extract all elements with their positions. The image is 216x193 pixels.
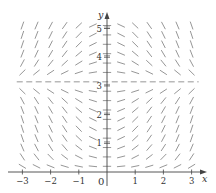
x-tick-label: 1 <box>132 176 137 186</box>
slope-segment <box>47 89 53 93</box>
slope-segment <box>132 51 138 56</box>
slope-segment <box>76 108 82 113</box>
slope-segment <box>190 31 192 38</box>
slope-segment <box>160 70 166 74</box>
x-tick-label: 3 <box>189 176 194 186</box>
slope-segment <box>75 166 82 167</box>
slope-segment <box>147 32 151 38</box>
slope-segment <box>161 144 165 150</box>
x-tick-label: −2 <box>44 176 57 186</box>
slope-segment <box>118 43 125 46</box>
slope-segment <box>133 42 138 47</box>
slope-segment <box>147 126 151 132</box>
slope-segments <box>17 22 199 168</box>
slope-segment <box>63 135 67 141</box>
slope-segment <box>89 146 96 149</box>
slope-segment <box>132 166 139 167</box>
slope-segment <box>62 155 68 160</box>
slope-segment <box>61 165 68 167</box>
slope-segment <box>62 61 67 66</box>
slope-segment <box>21 22 24 29</box>
slope-segment <box>34 60 38 66</box>
slope-segment <box>162 135 166 142</box>
slope-segment <box>118 24 125 27</box>
slope-segment <box>162 41 165 48</box>
slope-segment <box>76 145 82 150</box>
slope-segment <box>90 43 97 46</box>
slope-segment <box>20 89 25 94</box>
slope-segment <box>89 166 96 167</box>
slope-segment <box>162 22 166 29</box>
slope-segment <box>34 154 39 160</box>
slope-segment <box>118 52 125 55</box>
slope-segment <box>176 50 179 57</box>
y-tick-label: 5 <box>97 24 102 34</box>
slope-segment <box>49 125 52 132</box>
slope-segment <box>21 107 24 114</box>
slope-segment <box>132 23 137 28</box>
slope-segment <box>49 32 52 39</box>
slope-segment <box>49 144 53 150</box>
slope-segment <box>62 145 67 151</box>
slope-segment <box>147 107 152 113</box>
y-axis-label: y <box>97 9 104 20</box>
slope-segment <box>176 125 179 132</box>
slope-segment <box>147 22 151 28</box>
slope-segment <box>118 127 125 130</box>
slope-segment <box>118 62 125 64</box>
slope-segment <box>162 32 165 39</box>
slope-segment <box>63 32 67 38</box>
slope-segment <box>76 99 82 103</box>
slope-segment <box>160 165 167 168</box>
slope-segment <box>75 71 82 73</box>
slope-segment <box>175 97 179 103</box>
slope-segment <box>147 145 152 151</box>
slope-segment <box>176 41 179 48</box>
slope-segment <box>189 89 194 94</box>
slope-segment <box>63 116 67 122</box>
slope-segment <box>49 41 52 48</box>
slope-segment <box>117 72 124 73</box>
slope-segment <box>34 89 40 94</box>
slope-segment <box>34 97 38 103</box>
slope-segment <box>90 33 97 36</box>
slope-segment <box>76 32 81 37</box>
slope-segment <box>89 62 96 64</box>
slope-segment <box>147 61 153 66</box>
x-tick-label: −3 <box>16 176 29 186</box>
slope-segment <box>61 71 68 74</box>
slope-segment <box>190 60 194 67</box>
slope-segment <box>132 108 138 113</box>
slope-segment <box>133 32 138 37</box>
slope-segment <box>146 90 153 93</box>
origin-label: 0 <box>98 176 104 187</box>
slope-segment <box>21 144 24 151</box>
y-axis-ticks: 12345 <box>97 24 110 149</box>
slope-segment <box>89 91 96 92</box>
slope-segment <box>176 107 179 114</box>
slope-segment <box>76 136 81 141</box>
slope-segment <box>161 60 166 66</box>
slope-segment <box>48 98 53 104</box>
slope-segment <box>190 116 192 123</box>
slope-segment <box>176 116 179 123</box>
slope-segment <box>35 50 38 57</box>
slope-segment <box>176 144 179 151</box>
slope-segment <box>89 109 96 112</box>
slope-field-plot: −3−2−1123 12345 x y 0 <box>0 0 216 193</box>
slope-segment <box>117 156 124 158</box>
slope-segment <box>21 116 23 123</box>
slope-segment <box>117 166 124 167</box>
slope-segment <box>76 126 81 131</box>
slope-segment <box>21 41 23 48</box>
slope-segment <box>47 165 54 168</box>
slope-segment <box>63 41 67 47</box>
slope-segment <box>90 137 97 140</box>
slope-segment <box>190 125 192 132</box>
slope-segment <box>117 91 124 92</box>
slope-segment <box>76 117 81 122</box>
slope-segment <box>76 23 81 28</box>
slope-segment <box>35 41 38 48</box>
slope-segment <box>175 154 180 160</box>
slope-segment <box>34 70 40 75</box>
